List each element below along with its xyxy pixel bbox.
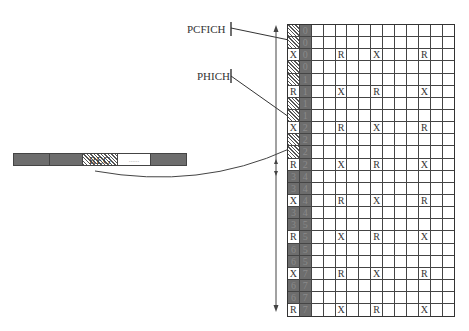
grid-row: 34 <box>288 183 454 195</box>
resource-element-cell <box>324 134 336 146</box>
resource-element-cell <box>407 195 419 207</box>
resource-element-cell <box>443 292 455 304</box>
resource-element-cell <box>431 183 443 195</box>
resource-element-cell <box>443 98 455 110</box>
resource-element-cell: R <box>419 268 431 280</box>
resource-element-cell: X <box>336 304 348 316</box>
resource-element-cell <box>383 231 395 243</box>
resource-element-cell <box>336 207 348 219</box>
resource-element-cell <box>419 183 431 195</box>
index-cell: 0 <box>300 25 312 37</box>
resource-element-cell <box>359 207 371 219</box>
resource-element-cell <box>383 292 395 304</box>
resource-element-cell <box>395 122 407 134</box>
grid-row: 67 <box>288 280 454 292</box>
resource-element-cell <box>395 183 407 195</box>
resource-element-cell <box>443 183 455 195</box>
resource-element-cell <box>371 25 383 37</box>
grid-row: R1XRX <box>288 86 454 98</box>
resource-element-cell <box>347 159 359 171</box>
resource-element-cell <box>347 86 359 98</box>
resource-element-cell <box>431 231 443 243</box>
resource-element-cell <box>407 146 419 158</box>
resource-element-cell <box>431 280 443 292</box>
control-region-cell <box>288 110 300 122</box>
resource-element-cell <box>371 244 383 256</box>
resource-element-cell <box>407 268 419 280</box>
resource-element-cell <box>419 25 431 37</box>
index-cell: 0 <box>300 61 312 73</box>
resource-element-cell <box>443 219 455 231</box>
control-region-cell: X <box>288 49 300 61</box>
grid-row: 65 <box>288 244 454 256</box>
control-region-cell: R <box>288 86 300 98</box>
resource-element-cell <box>383 268 395 280</box>
resource-element-cell: X <box>419 86 431 98</box>
control-region-cell: 3 <box>288 183 300 195</box>
resource-element-cell <box>324 280 336 292</box>
resource-element-cell <box>359 134 371 146</box>
resource-element-cell <box>359 231 371 243</box>
resource-element-cell <box>419 292 431 304</box>
control-region-cell: X <box>288 195 300 207</box>
grid-row: 65 <box>288 256 454 268</box>
control-region-cell <box>288 134 300 146</box>
resource-element-cell <box>371 61 383 73</box>
resource-element-cell <box>347 122 359 134</box>
resource-element-cell <box>395 171 407 183</box>
resource-element-cell <box>443 268 455 280</box>
resource-element-cell <box>395 207 407 219</box>
control-region-cell <box>288 61 300 73</box>
resource-element-cell <box>312 74 324 86</box>
resource-element-cell: X <box>336 231 348 243</box>
reg-bar-segment <box>151 154 186 165</box>
control-region-cell <box>288 146 300 158</box>
index-cell: 4 <box>300 207 312 219</box>
resource-element-cell <box>324 98 336 110</box>
resource-element-cell <box>336 219 348 231</box>
index-cell: 1 <box>300 86 312 98</box>
resource-element-cell <box>431 256 443 268</box>
resource-element-cell <box>407 292 419 304</box>
resource-element-cell <box>312 231 324 243</box>
resource-element-cell <box>383 207 395 219</box>
resource-element-cell <box>407 86 419 98</box>
grid-row: 1 <box>288 110 454 122</box>
resource-element-cell <box>371 146 383 158</box>
resource-element-cell <box>312 49 324 61</box>
resource-element-cell <box>431 37 443 49</box>
resource-element-cell <box>407 244 419 256</box>
resource-element-cell <box>336 280 348 292</box>
resource-element-cell <box>395 134 407 146</box>
resource-element-cell <box>383 74 395 86</box>
resource-element-cell <box>359 219 371 231</box>
resource-element-cell <box>312 304 324 316</box>
resource-element-cell <box>443 37 455 49</box>
resource-element-cell <box>407 207 419 219</box>
resource-element-cell <box>312 25 324 37</box>
resource-element-cell <box>383 134 395 146</box>
resource-element-cell <box>443 134 455 146</box>
resource-element-cell <box>312 268 324 280</box>
resource-element-cell <box>419 98 431 110</box>
resource-element-cell: R <box>419 49 431 61</box>
resource-element-cell <box>443 207 455 219</box>
resource-element-cell <box>336 171 348 183</box>
resource-element-cell <box>359 37 371 49</box>
resource-element-cell <box>324 292 336 304</box>
resource-element-cell <box>383 49 395 61</box>
index-cell: 1 <box>300 98 312 110</box>
resource-element-cell <box>347 292 359 304</box>
resource-element-cell: X <box>336 159 348 171</box>
resource-element-cell <box>431 86 443 98</box>
resource-element-cell <box>395 195 407 207</box>
resource-element-cell <box>359 171 371 183</box>
grid-row: 0 <box>288 25 454 37</box>
resource-element-cell <box>371 74 383 86</box>
resource-element-cell <box>383 25 395 37</box>
resource-element-cell <box>371 134 383 146</box>
resource-element-cell <box>395 280 407 292</box>
resource-element-cell <box>359 61 371 73</box>
resource-element-grid: 00X0RXR01R1XRX11X2RXR22R2XRX3434X4RXR343… <box>287 24 455 317</box>
resource-element-cell <box>324 25 336 37</box>
